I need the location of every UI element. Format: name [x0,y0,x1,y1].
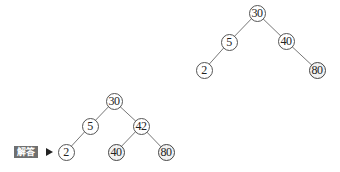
tree-node: 40 [278,33,295,50]
tree-node: 5 [221,34,238,51]
tree-node: 2 [196,62,213,79]
tree-node: 2 [58,144,75,161]
tree-node: 30 [106,93,123,110]
arrow-right-icon [46,148,53,156]
tree-node: 30 [249,5,266,22]
tree-node: 80 [158,144,175,161]
answer-label: 解答 [14,146,38,158]
tree-node: 42 [133,118,150,135]
tree-node: 5 [82,118,99,135]
diagram-canvas: 30 5 40 2 80 30 5 42 2 40 80 解答 [0,0,340,172]
tree-node: 40 [108,144,125,161]
tree-node: 80 [309,62,326,79]
